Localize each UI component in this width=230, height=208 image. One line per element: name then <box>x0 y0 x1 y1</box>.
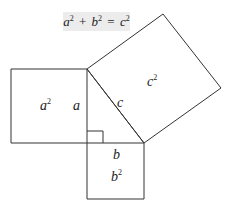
label-square-a: a2 <box>40 99 51 113</box>
label-side-c: c <box>117 96 123 110</box>
eq-b-exp: 2 <box>98 14 102 23</box>
eq-equals: = <box>105 14 116 29</box>
label-side-b: b <box>113 148 120 162</box>
label-square-b-exp: 2 <box>118 168 122 177</box>
pythagorean-theorem-diagram: a2 + b2 = c2 a2 a c c2 b b2 <box>0 0 230 208</box>
label-square-b: b2 <box>111 170 122 184</box>
eq-plus: + <box>77 14 88 29</box>
right-angle-marker <box>87 131 103 143</box>
eq-c-exp: 2 <box>126 14 130 23</box>
equation-box: a2 + b2 = c2 <box>63 12 130 31</box>
label-square-c: c2 <box>147 75 157 89</box>
label-square-a-base: a <box>40 98 47 113</box>
eq-a-exp: 2 <box>70 14 74 23</box>
hypotenuse-c <box>87 69 144 143</box>
label-side-a: a <box>73 99 80 113</box>
label-square-a-exp: 2 <box>47 97 51 106</box>
label-square-b-base: b <box>111 169 118 184</box>
label-square-c-exp: 2 <box>153 73 157 82</box>
